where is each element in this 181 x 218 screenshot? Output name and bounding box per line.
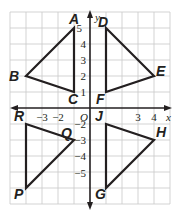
y-tick-label: 3: [81, 54, 87, 66]
y-tick-label: 2: [81, 70, 87, 82]
y-axis-down-arrow-icon: [87, 202, 93, 210]
x-axis-label: x: [165, 111, 171, 123]
y-tick-label: −4: [74, 150, 86, 162]
x-tick-label: −2: [52, 111, 64, 123]
vertex-label-f: F: [96, 91, 105, 107]
vertex-labels: A B C D E F R Q P J H G: [9, 11, 167, 202]
x-tick-label: 3: [135, 111, 141, 123]
x-axis: [10, 105, 172, 111]
y-tick-label: 1: [81, 86, 87, 98]
x-tick-label: 4: [151, 111, 157, 123]
vertex-label-e: E: [156, 63, 166, 79]
y-tick-label: 4: [81, 38, 87, 50]
coordinate-plane: y x O 5 4 3 2 1 −2 −3 −4 −5 −3 −2 3 4 A …: [0, 0, 181, 218]
vertex-label-g: G: [95, 186, 106, 202]
vertex-label-c: C: [68, 91, 79, 107]
y-axis: [87, 10, 93, 210]
y-axis-up-arrow-icon: [87, 10, 93, 18]
x-tick-label: −3: [36, 111, 48, 123]
y-tick-label: −5: [74, 167, 86, 179]
vertex-label-d: D: [98, 14, 108, 30]
vertex-label-j: J: [95, 108, 104, 124]
vertex-label-a: A: [68, 11, 79, 27]
y-tick-label: −3: [74, 134, 86, 146]
vertex-label-b: B: [9, 68, 19, 84]
y-tick-label: −2: [74, 118, 86, 130]
vertex-label-p: P: [14, 186, 24, 202]
vertex-label-q: Q: [61, 125, 72, 141]
vertex-label-r: R: [14, 108, 25, 124]
vertex-label-h: H: [156, 124, 167, 140]
